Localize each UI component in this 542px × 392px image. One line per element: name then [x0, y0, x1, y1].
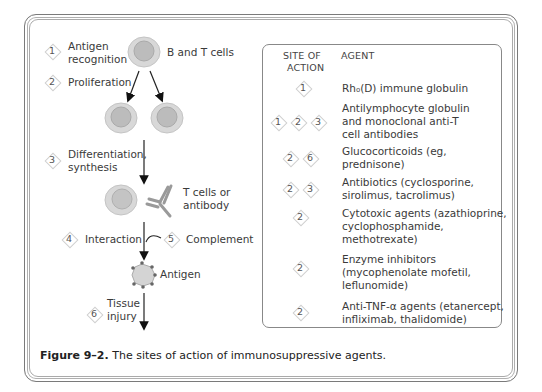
antibody-icon [147, 186, 171, 216]
agent-text: prednisone) [342, 158, 405, 171]
b-t-cell-icon [128, 37, 160, 67]
header-agent: AGENT [341, 50, 375, 62]
step-6-label-line1: Tissue [107, 297, 140, 310]
figure-label: Figure 9–2. [40, 349, 109, 362]
header-site-line2: ACTION [287, 62, 324, 74]
step-3-label-line2: synthesis [68, 161, 117, 174]
effector-cell-icon [105, 185, 137, 215]
agent-text: sirolimus, tacrolimus) [342, 189, 455, 202]
b-and-t-cells-label: B and T cells [167, 46, 234, 59]
header-site-line1: SITE OF [283, 50, 321, 62]
agent-text: Cytotoxic agents (azathioprine, [342, 207, 507, 220]
agent-text: Glucocorticoids (eg, [342, 145, 447, 158]
step-1-label-line1: Antigen [68, 40, 109, 53]
agent-text: leflunomide) [342, 279, 408, 292]
step-2-label: Proliferation [68, 76, 132, 89]
agent-text: infliximab, thalidomide) [342, 313, 467, 326]
agent-text: cell antibodies [342, 128, 418, 141]
site-badge: 2 [282, 150, 298, 166]
t-cells-or-label: T cells or [183, 186, 230, 199]
step-4-label: Interaction [85, 233, 142, 246]
site-badge: 2 [282, 181, 298, 197]
step-3-label-line1: Differentiation, [68, 148, 147, 161]
step-3-badge: 3 [44, 152, 60, 168]
proliferated-cell-icon [151, 103, 183, 133]
agent-text: methotrexate) [342, 233, 418, 246]
agent-text: Rh₀(D) immune globulin [342, 82, 468, 95]
agent-text: Anti-TNF-α agents (etanercept, [342, 300, 504, 313]
site-badge: 2 [292, 209, 308, 225]
site-badge: 1 [270, 114, 286, 130]
agent-text: (mycophenolate mofetil, [342, 266, 471, 279]
agent-text: and monoclonal anti-T [342, 115, 459, 128]
site-badge: 2 [292, 304, 308, 320]
step-5-label: Complement [186, 233, 254, 246]
agent-text: Enzyme inhibitors [342, 253, 436, 266]
antigen-label: Antigen [160, 268, 201, 281]
step-5-badge: 5 [163, 231, 179, 247]
antibody-label: antibody [183, 199, 229, 212]
proliferated-cell-icon [105, 103, 137, 133]
step-4-badge: 4 [61, 231, 77, 247]
site-badge: 3 [302, 181, 318, 197]
step-1-label-line2: recognition [68, 53, 127, 66]
site-badge: 1 [295, 80, 311, 96]
step-2-badge: 2 [44, 74, 60, 90]
step-1-badge: 1 [44, 43, 60, 59]
site-badge: 2 [292, 260, 308, 276]
figure-caption-text: The sites of action of immunosuppressive… [109, 349, 386, 362]
agent-text: cyclophosphamide, [342, 220, 444, 233]
figure-caption: Figure 9–2. The sites of action of immun… [40, 349, 386, 362]
agent-text: Antibiotics (cyclosporine, [342, 176, 474, 189]
site-badge: 3 [310, 114, 326, 130]
antigen-icon [131, 261, 157, 289]
step-6-label-line2: injury [107, 310, 137, 323]
step-6-badge: 6 [86, 306, 102, 322]
site-badge: 2 [290, 114, 306, 130]
agent-text: Antilymphocyte globulin [342, 102, 470, 115]
site-badge: 6 [302, 150, 318, 166]
